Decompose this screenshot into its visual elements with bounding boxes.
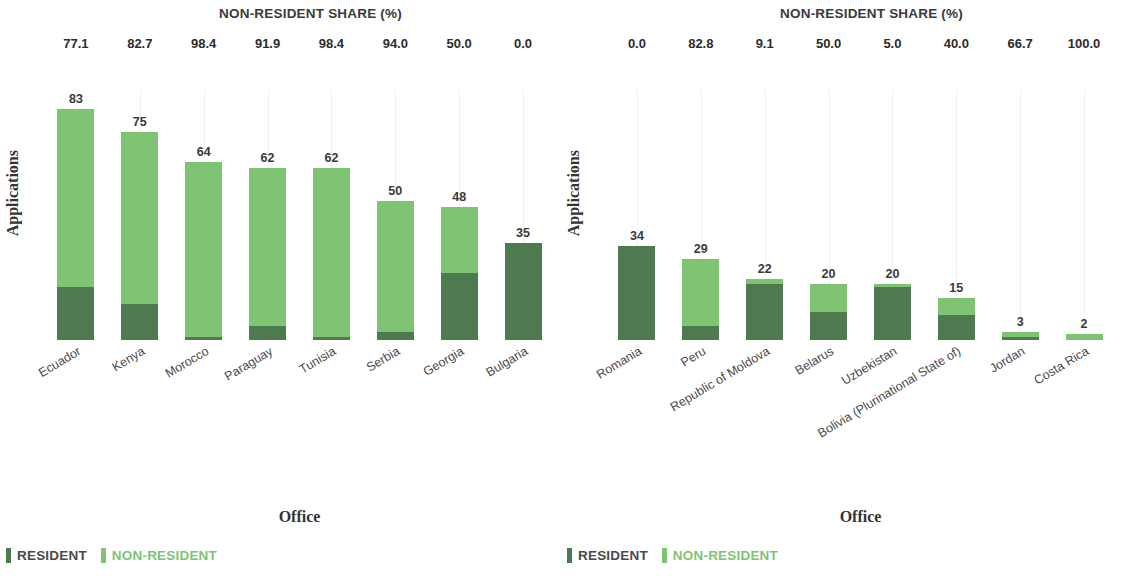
x-label-slot: Uzbekistan (861, 340, 925, 490)
bar-segment-resident[interactable] (618, 246, 655, 340)
share-value: 82.7 (108, 36, 172, 54)
bar-value-label: 35 (493, 226, 553, 240)
x-axis-label: Belarus (792, 344, 836, 378)
x-axis-label: Serbia (364, 344, 402, 375)
bar-slot: 64 (172, 90, 236, 340)
stacked-bar[interactable] (1002, 332, 1039, 340)
bar-segment-non-resident[interactable] (121, 132, 158, 304)
stacked-bar[interactable] (810, 284, 847, 340)
share-value: 94.0 (363, 36, 427, 54)
bar-segment-resident[interactable] (874, 287, 911, 340)
x-label-slot: Paraguay (236, 340, 300, 490)
x-axis-label: Jordan (987, 344, 1027, 376)
x-axis-label: Ecuador (36, 344, 83, 380)
bar-value-label: 75 (110, 115, 170, 129)
stacked-bar[interactable] (57, 109, 94, 340)
x-label-slot: Kenya (108, 340, 172, 490)
bar-segment-resident[interactable] (441, 273, 478, 340)
bar-value-label: 62 (301, 151, 361, 165)
stacked-bar[interactable] (505, 243, 542, 340)
bar-segment-resident[interactable] (938, 315, 975, 340)
stacked-bar[interactable] (682, 259, 719, 340)
share-value: 98.4 (300, 36, 364, 54)
bar-segment-non-resident[interactable] (185, 162, 222, 337)
bar-segment-non-resident[interactable] (682, 259, 719, 326)
share-value: 0.0 (605, 36, 669, 54)
x-label-slot: Morocco (172, 340, 236, 490)
bar-segment-non-resident[interactable] (377, 201, 414, 332)
bar-segment-non-resident[interactable] (313, 168, 350, 337)
legend-item-non-resident-right[interactable]: NON-RESIDENT (662, 548, 778, 563)
bar-value-label: 48 (429, 190, 489, 204)
bar-value-label: 29 (671, 242, 731, 256)
bar-segment-non-resident[interactable] (810, 284, 847, 312)
bar-segment-resident[interactable] (377, 332, 414, 340)
share-value: 40.0 (924, 36, 988, 54)
bar-segment-non-resident[interactable] (938, 298, 975, 315)
share-value: 98.4 (172, 36, 236, 54)
stacked-bar[interactable] (185, 162, 222, 340)
bar-segment-resident[interactable] (121, 304, 158, 340)
x-axis-label: Peru (678, 344, 708, 370)
legend-swatch-resident-icon (6, 548, 11, 563)
x-axis-labels-right: RomaniaPeruRepublic of MoldovaBelarusUzb… (605, 340, 1116, 490)
stacked-bar[interactable] (313, 168, 350, 340)
legend-swatch-non-resident-icon (101, 548, 106, 563)
bar-value-label: 62 (238, 151, 298, 165)
x-label-slot: Costa Rica (1052, 340, 1116, 490)
bar-slot: 20 (861, 90, 925, 340)
share-values-row-right: 0.082.89.150.05.040.066.7100.0 (605, 36, 1116, 54)
bar-segment-resident[interactable] (57, 287, 94, 340)
bars-left: 8375646262504835 (44, 90, 555, 340)
bar-slot: 62 (300, 90, 364, 340)
stacked-bar[interactable] (938, 298, 975, 340)
stacked-bar[interactable] (746, 279, 783, 340)
legend-label-resident: RESIDENT (17, 548, 87, 563)
bar-segment-non-resident[interactable] (249, 168, 286, 326)
bar-segment-resident[interactable] (682, 326, 719, 340)
plot-area-left: 8375646262504835 (44, 90, 555, 340)
legend-label-resident: RESIDENT (578, 548, 648, 563)
stacked-bar[interactable] (441, 207, 478, 340)
share-header-left: NON-RESIDENT SHARE (%) (0, 6, 561, 21)
x-label-slot: Jordan (988, 340, 1052, 490)
x-label-slot: Ecuador (44, 340, 108, 490)
legend-item-resident-left[interactable]: RESIDENT (6, 548, 87, 563)
bar-slot: 48 (427, 90, 491, 340)
share-header-right: NON-RESIDENT SHARE (%) (561, 6, 1122, 21)
x-axis-label: Romania (594, 344, 644, 382)
stacked-bar[interactable] (121, 132, 158, 340)
bar-segment-resident[interactable] (505, 243, 542, 340)
bar-value-label: 64 (174, 145, 234, 159)
stacked-bar[interactable] (874, 284, 911, 340)
bar-segment-resident[interactable] (249, 326, 286, 340)
bar-slot: 20 (797, 90, 861, 340)
bar-slot: 62 (236, 90, 300, 340)
x-axis-title-right: Office (605, 508, 1116, 526)
x-label-slot: Bulgaria (491, 340, 555, 490)
bar-value-label: 20 (799, 267, 859, 281)
x-axis-labels-left: EcuadorKenyaMoroccoParaguayTunisiaSerbia… (44, 340, 555, 490)
share-values-row-left: 77.182.798.491.998.494.050.00.0 (44, 36, 555, 54)
x-label-slot: Bolivia (Plurinational State of) (924, 340, 988, 490)
bar-value-label: 22 (735, 262, 795, 276)
stacked-bar[interactable] (618, 246, 655, 340)
stacked-bar[interactable] (377, 201, 414, 340)
bars-right: 34292220201532 (605, 90, 1116, 340)
bar-segment-non-resident[interactable] (441, 207, 478, 274)
share-value: 50.0 (427, 36, 491, 54)
x-label-slot: Republic of Moldova (733, 340, 797, 490)
share-value: 9.1 (733, 36, 797, 54)
chart-panel-left: NON-RESIDENT SHARE (%) 77.182.798.491.99… (0, 0, 561, 576)
legend-item-resident-right[interactable]: RESIDENT (567, 548, 648, 563)
stacked-bar[interactable] (249, 168, 286, 340)
bar-segment-resident[interactable] (746, 284, 783, 340)
share-value: 66.7 (988, 36, 1052, 54)
legend-item-non-resident-left[interactable]: NON-RESIDENT (101, 548, 217, 563)
share-value: 91.9 (236, 36, 300, 54)
share-value: 50.0 (797, 36, 861, 54)
bar-segment-non-resident[interactable] (57, 109, 94, 287)
bar-slot: 22 (733, 90, 797, 340)
y-axis-title-right: Applications (565, 150, 583, 236)
bar-segment-resident[interactable] (810, 312, 847, 340)
